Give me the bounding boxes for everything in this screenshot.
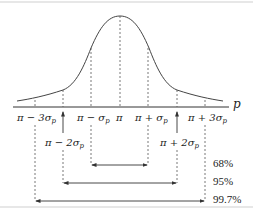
label-mu: π bbox=[115, 112, 123, 123]
interval-95-label: 95% bbox=[213, 175, 233, 187]
label-mu-minus-3sigma: π − 3σp bbox=[16, 112, 57, 125]
label-mu-plus-2sigma: π + 2σp bbox=[159, 137, 200, 150]
axis-label-p: p bbox=[233, 97, 241, 111]
label-mu-plus-3sigma: π + 3σp bbox=[187, 112, 228, 125]
sigma-guides-upper bbox=[35, 16, 205, 107]
label-mu-plus-sigma: π + σp bbox=[134, 112, 168, 125]
tick-labels: π − 3σp π − σp π π + σp π + 3σp bbox=[16, 112, 228, 125]
interval-68-label: 68% bbox=[213, 157, 233, 169]
normal-distribution-diagram: p π − 3σp π − σp π π + σp π + 3σp π − 2σ… bbox=[0, 0, 253, 209]
label-mu-minus-2sigma: π − 2σp bbox=[44, 137, 85, 150]
label-mu-minus-sigma: π − σp bbox=[76, 112, 110, 125]
interval-997-label: 99.7% bbox=[213, 193, 241, 205]
